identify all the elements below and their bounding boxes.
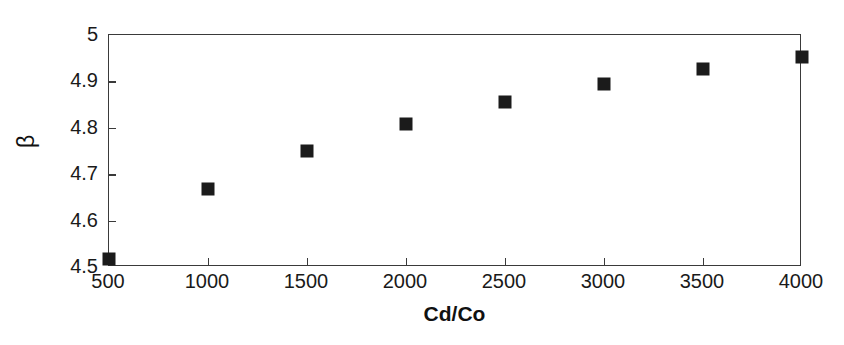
data-point [400,117,413,130]
y-tick-label: 4.8 [70,115,98,138]
x-tick-mark [307,258,308,265]
data-point [499,95,512,108]
y-tick-label: 4.6 [70,208,98,231]
x-tick-label: 2500 [482,270,527,293]
chart-figure: β 5 4.9 4.8 4.7 4.6 4.5 500 1000 1500 [0,0,844,345]
data-point [202,183,215,196]
x-tick-label: 1500 [284,270,329,293]
x-tick-mark [505,258,506,265]
data-point [598,78,611,91]
y-tick-label: 4.7 [70,162,98,185]
x-tick-label: 2000 [383,270,428,293]
x-tick-mark [406,258,407,265]
x-tick-label: 4000 [779,270,824,293]
x-tick-mark [703,258,704,265]
y-tick-mark [109,81,116,82]
data-point [301,144,314,157]
data-point [697,63,710,76]
y-tick-mark [109,128,116,129]
x-axis-title: Cd/Co [108,302,801,326]
x-tick-mark [604,258,605,265]
y-tick-label: 4.9 [70,69,98,92]
y-tick-mark [109,174,116,175]
data-point [796,50,809,63]
y-axis-tick-labels: 5 4.9 4.8 4.7 4.6 4.5 [0,0,98,345]
x-tick-label: 500 [91,270,124,293]
y-tick-mark [109,221,116,222]
x-tick-mark [208,258,209,265]
y-tick-label: 5 [87,23,98,46]
x-tick-label: 1000 [185,270,230,293]
x-tick-label: 3000 [581,270,626,293]
data-point [103,252,116,265]
plot-area [108,34,801,266]
x-tick-label: 3500 [680,270,725,293]
